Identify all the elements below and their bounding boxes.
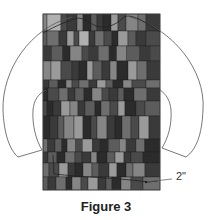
quilt-block (43, 80, 49, 88)
quilt-block (50, 116, 58, 139)
quilt-block (58, 116, 64, 139)
quilt-block (98, 177, 106, 190)
quilt-block (113, 80, 123, 88)
quilt-block (92, 163, 99, 177)
quilt-jacket-diagram (0, 0, 212, 220)
quilt-block (126, 163, 133, 177)
quilt-block (139, 46, 150, 61)
quilt-block (43, 163, 49, 177)
quilt-block (120, 139, 127, 152)
quilt-block (65, 152, 75, 163)
quilt-block (103, 14, 111, 31)
quilt-block (85, 101, 95, 116)
quilt-block (133, 163, 145, 177)
quilt-block (63, 46, 71, 61)
quilt-block (81, 177, 88, 190)
quilt-block (107, 152, 115, 163)
quilt-block (145, 139, 160, 152)
quilt-block (82, 46, 89, 61)
quilt-block (146, 31, 160, 46)
quilt-block (61, 61, 72, 80)
quilt-block (124, 152, 131, 163)
quilt-block (91, 14, 97, 31)
quilt-block (91, 116, 97, 139)
quilt-block (52, 46, 63, 61)
quilt-block (136, 31, 146, 46)
quilt-block (77, 14, 83, 31)
quilt-block (115, 116, 122, 139)
quilt-block (131, 116, 139, 139)
quilt-block (125, 101, 136, 116)
quilt-block (92, 139, 100, 152)
quilt-block (74, 116, 83, 139)
quilt-block (110, 101, 118, 116)
quilt-block (146, 14, 160, 31)
quilt-block (101, 101, 110, 116)
quilt-block (97, 14, 103, 31)
quilt-block (91, 152, 97, 163)
quilt-block (93, 61, 102, 80)
quilt-block (66, 177, 72, 190)
quilt-block (126, 46, 139, 61)
quilt-block (57, 152, 65, 163)
quilt-block (123, 80, 132, 88)
quilt-block (48, 88, 59, 101)
quilt-block (128, 31, 136, 46)
quilt-block (82, 152, 91, 163)
quilt-block (82, 139, 92, 152)
quilt-block (118, 31, 128, 46)
quilt-block (72, 177, 81, 190)
quilt-block (56, 177, 66, 190)
quilt-block (136, 139, 145, 152)
quilt-block (68, 88, 75, 101)
quilt-block (79, 31, 89, 46)
quilt-block (72, 61, 79, 80)
quilt-block (134, 88, 147, 101)
quilt-block (48, 152, 57, 163)
quilt-block (143, 152, 160, 163)
quilt-block (43, 116, 50, 139)
quilt-block (147, 88, 160, 101)
quilt-block (43, 177, 48, 190)
quilt-block (139, 116, 149, 139)
quilt-block (48, 177, 56, 190)
quilt-block (43, 31, 47, 46)
quilt-block (95, 101, 101, 116)
quilt-block (126, 139, 136, 152)
quilt-block (87, 61, 93, 80)
quilt-block (47, 31, 59, 46)
quilt-block (89, 31, 95, 46)
quilt-block (136, 101, 145, 116)
quilt-block (147, 61, 160, 80)
quilt-block (137, 61, 147, 80)
quilt-block (43, 61, 51, 80)
quilt-block (62, 139, 67, 152)
quilt-block (131, 152, 143, 163)
quilt-block (149, 116, 160, 139)
quilt-block (112, 31, 118, 46)
quilt-block (109, 46, 117, 61)
quilt-block (67, 139, 76, 152)
quilt-block (59, 88, 68, 101)
figure-caption: Figure 3 (0, 199, 212, 214)
quilt-block (76, 139, 83, 152)
quilt-block (104, 31, 112, 46)
quilt-block (53, 101, 61, 116)
quilt-block (43, 46, 52, 61)
quilt-block (98, 46, 109, 61)
quilt-block (43, 152, 48, 163)
quilt-block (78, 101, 85, 116)
quilt-block (131, 177, 143, 190)
quilt-block (100, 139, 109, 152)
quilt-block (70, 46, 82, 61)
quilt-block (72, 80, 79, 88)
quilt-block (106, 80, 113, 88)
quilt-block (110, 61, 117, 80)
quilt-block (117, 46, 127, 61)
quilt-block (99, 163, 109, 177)
quilt-block (89, 46, 99, 61)
quilt-block (145, 101, 160, 116)
quilt-block (75, 152, 82, 163)
quilt-block (97, 152, 107, 163)
quilt-block (79, 80, 89, 88)
